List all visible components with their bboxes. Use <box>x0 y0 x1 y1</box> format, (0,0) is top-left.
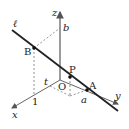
label-z: z <box>52 8 57 18</box>
label-A: A <box>89 81 96 91</box>
point-B <box>32 46 36 50</box>
diagram-svg <box>0 0 129 129</box>
label-b: b <box>63 23 69 33</box>
label-O: O <box>58 82 66 92</box>
diagram-canvas: ℓ z b B P A O t a 1 x y <box>0 0 129 129</box>
label-y: y <box>115 91 121 101</box>
label-1: 1 <box>32 97 38 107</box>
label-B: B <box>24 47 31 57</box>
label-t: t <box>44 77 48 87</box>
point-P <box>68 75 72 79</box>
label-x: x <box>12 110 18 120</box>
label-P: P <box>69 65 76 75</box>
label-l: ℓ <box>13 19 17 29</box>
label-a: a <box>81 95 87 105</box>
